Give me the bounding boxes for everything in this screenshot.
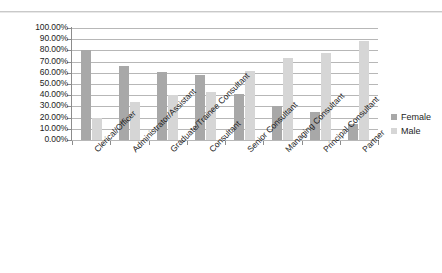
gridline bbox=[72, 62, 378, 63]
gridline bbox=[72, 50, 378, 51]
legend-swatch-icon bbox=[391, 114, 397, 120]
legend-item-female[interactable]: Female bbox=[391, 110, 431, 124]
y-axis-tick-label: 40.00% bbox=[8, 90, 68, 99]
bar-female bbox=[234, 94, 244, 140]
chart-legend: FemaleMale bbox=[391, 110, 431, 138]
gridline bbox=[72, 28, 378, 29]
bar-male bbox=[359, 41, 369, 140]
figure-top-rule-shadow bbox=[0, 12, 442, 13]
y-axis-tick-label: 70.00% bbox=[8, 57, 68, 66]
legend-label: Female bbox=[401, 112, 431, 122]
x-axis-tick bbox=[72, 141, 73, 145]
y-axis-tick-label: 30.00% bbox=[8, 101, 68, 110]
bar-male bbox=[92, 118, 102, 140]
y-axis-tick-label: 90.00% bbox=[8, 34, 68, 43]
y-axis-tick-label: 60.00% bbox=[8, 68, 68, 77]
y-axis-tick-label: 20.00% bbox=[8, 113, 68, 122]
bar-chart: 0.00%10.00%20.00%30.00%40.00%50.00%60.00… bbox=[0, 0, 442, 273]
bar-female bbox=[81, 50, 91, 140]
legend-item-male[interactable]: Male bbox=[391, 124, 431, 138]
y-axis-tick-label: 80.00% bbox=[8, 45, 68, 54]
y-axis-tick-label: 50.00% bbox=[8, 79, 68, 88]
gridline bbox=[72, 39, 378, 40]
bar-male bbox=[321, 53, 331, 140]
legend-label: Male bbox=[401, 126, 421, 136]
y-axis-tick-label: 10.00% bbox=[8, 124, 68, 133]
y-axis-tick-label: 100.00% bbox=[8, 23, 68, 32]
legend-swatch-icon bbox=[391, 128, 397, 134]
y-axis-tick-label: 0.00% bbox=[8, 135, 68, 144]
